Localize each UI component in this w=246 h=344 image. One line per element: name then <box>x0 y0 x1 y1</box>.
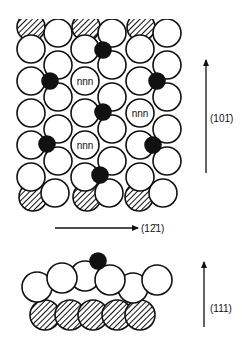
side-view-lattice <box>22 253 172 330</box>
surface-atom <box>17 35 45 63</box>
surface-atom <box>17 163 45 191</box>
nnn-site-label: nnn <box>77 140 94 151</box>
arrow-101bar-label: (101̄) <box>210 113 233 124</box>
adsorption-diagram: nnnnnnnnn (101̄)(12̄1)(111) <box>0 0 246 344</box>
surface-atom <box>44 19 72 47</box>
adatom <box>92 167 108 183</box>
surface-atom <box>149 179 177 207</box>
nnn-site-label: nnn <box>132 108 149 119</box>
surface-atom <box>142 265 172 295</box>
surface-atom <box>17 99 45 127</box>
surface-atom <box>41 179 69 207</box>
adatom <box>90 253 106 269</box>
arrow-12bar1-label: (12̄1) <box>141 223 164 234</box>
adatom <box>95 104 111 120</box>
adatom <box>145 137 161 153</box>
nnn-site-label: nnn <box>77 76 94 87</box>
substrate-atom <box>125 300 155 330</box>
surface-atom <box>126 35 154 63</box>
surface-atom <box>47 263 77 293</box>
arrow-111-label: (111) <box>210 303 232 314</box>
surface-atom <box>17 67 45 95</box>
adatom <box>149 73 165 89</box>
surface-atom <box>153 19 181 47</box>
top-view-lattice <box>17 13 181 211</box>
adatom <box>42 73 58 89</box>
adatom <box>39 136 55 152</box>
adatom <box>95 42 111 58</box>
